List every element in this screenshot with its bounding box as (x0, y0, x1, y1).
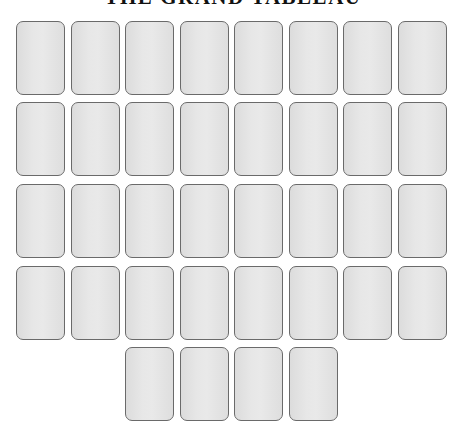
card-back-r1-c4[interactable] (180, 21, 229, 95)
card-back-r4-c1[interactable] (16, 266, 65, 340)
card-back-r3-c1[interactable] (16, 184, 65, 258)
card-back-r4-c5[interactable] (234, 266, 283, 340)
card-back-r2-c4[interactable] (180, 102, 229, 176)
card-back-r2-c8[interactable] (398, 102, 447, 176)
card-back-r1-c1[interactable] (16, 21, 65, 95)
card-back-r2-c7[interactable] (343, 102, 392, 176)
card-back-r3-c7[interactable] (343, 184, 392, 258)
card-back-r3-c8[interactable] (398, 184, 447, 258)
card-back-r2-c3[interactable] (125, 102, 174, 176)
card-back-r3-c6[interactable] (289, 184, 338, 258)
card-back-r2-c6[interactable] (289, 102, 338, 176)
card-back-r2-c2[interactable] (71, 102, 120, 176)
card-back-r3-c5[interactable] (234, 184, 283, 258)
card-back-r5-c6[interactable] (289, 347, 338, 421)
card-back-r1-c6[interactable] (289, 21, 338, 95)
card-back-r4-c2[interactable] (71, 266, 120, 340)
card-back-r1-c5[interactable] (234, 21, 283, 95)
card-back-r2-c5[interactable] (234, 102, 283, 176)
card-back-r5-c5[interactable] (234, 347, 283, 421)
card-back-r2-c1[interactable] (16, 102, 65, 176)
card-back-r5-c4[interactable] (180, 347, 229, 421)
card-back-r1-c2[interactable] (71, 21, 120, 95)
card-back-r4-c4[interactable] (180, 266, 229, 340)
card-back-r3-c3[interactable] (125, 184, 174, 258)
card-back-r5-c3[interactable] (125, 347, 174, 421)
card-back-r4-c6[interactable] (289, 266, 338, 340)
card-back-r4-c7[interactable] (343, 266, 392, 340)
card-back-r3-c4[interactable] (180, 184, 229, 258)
card-tableau (0, 0, 466, 437)
card-back-r1-c8[interactable] (398, 21, 447, 95)
card-back-r3-c2[interactable] (71, 184, 120, 258)
card-back-r4-c3[interactable] (125, 266, 174, 340)
card-back-r1-c7[interactable] (343, 21, 392, 95)
card-back-r4-c8[interactable] (398, 266, 447, 340)
card-back-r1-c3[interactable] (125, 21, 174, 95)
